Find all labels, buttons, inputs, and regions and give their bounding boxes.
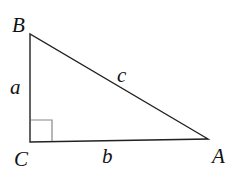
vertex-label-a: A <box>210 144 225 168</box>
right-angle-marker <box>31 120 52 141</box>
vertex-label-c: C <box>14 147 29 171</box>
side-label-a: a <box>10 75 21 99</box>
triangle-diagram: B a c C b A <box>0 0 242 187</box>
side-label-c: c <box>117 63 127 87</box>
vertex-label-b: B <box>12 13 25 37</box>
side-label-b: b <box>102 144 113 168</box>
triangle-outline <box>30 34 208 142</box>
